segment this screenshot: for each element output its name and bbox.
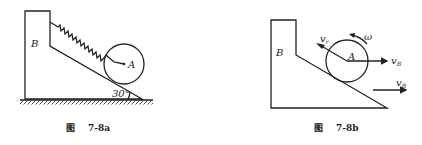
figure-7-8a: B A 30° 图 7-8a <box>20 11 153 133</box>
label-angle: 30° <box>112 88 130 99</box>
diagram-canvas: B A 30° 图 7-8a B A ω vr vB vB <box>0 0 422 145</box>
label-disk-a: A <box>347 51 355 62</box>
label-vB-block: vB <box>396 77 407 89</box>
caption-7-8b: 图 <box>314 123 323 133</box>
ground-hatch <box>20 101 153 105</box>
label-omega: ω <box>364 31 372 42</box>
caption-7-8a-number: 7-8a <box>88 123 110 133</box>
label-disk-a: A <box>127 59 135 70</box>
omega-arrowhead <box>349 33 355 38</box>
figure-7-8b: B A ω vr vB vB 图 7-8b <box>271 20 407 133</box>
label-block-b: B <box>30 38 38 49</box>
block-b <box>25 11 142 99</box>
caption-7-8b-number: 7-8b <box>336 123 359 133</box>
caption-7-8a: 图 <box>66 123 75 133</box>
label-vB-center: vB <box>391 55 402 67</box>
spring <box>50 22 124 64</box>
label-block-b: B <box>275 47 283 58</box>
label-vr: vr <box>320 33 330 45</box>
